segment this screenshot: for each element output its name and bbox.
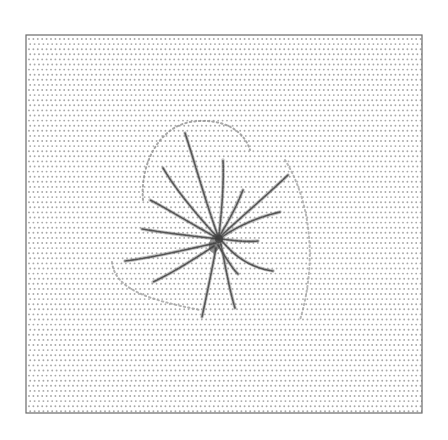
background	[0, 0, 448, 440]
figure-canvas	[0, 0, 448, 440]
